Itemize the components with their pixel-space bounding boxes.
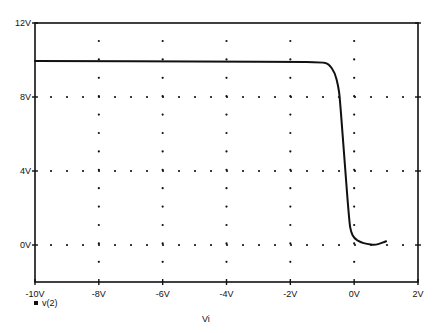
legend-label: v(2) <box>42 298 58 308</box>
x-tick-label: -6V <box>156 289 170 299</box>
y-tick-label: 4V <box>20 166 31 176</box>
x-tick-label: 0V <box>349 289 360 299</box>
legend: v(2) <box>34 298 58 308</box>
line-chart: -10V-8V-6V-4V-2V0V2V 0V4V8V12V <box>0 0 437 333</box>
x-axis-tick-labels: -10V-8V-6V-4V-2V0V2V <box>25 289 423 299</box>
y-tick-label: 0V <box>20 240 31 250</box>
x-tick-label: -4V <box>219 289 233 299</box>
y-tick-label: 12V <box>15 18 31 28</box>
x-tick-label: 2V <box>412 289 423 299</box>
y-axis-tick-labels: 0V4V8V12V <box>15 18 31 250</box>
x-tick-label: -2V <box>283 289 297 299</box>
series-v2-line <box>35 61 386 245</box>
y-tick-label: 8V <box>20 92 31 102</box>
x-axis-label: Vi <box>202 314 210 324</box>
x-tick-label: -8V <box>92 289 106 299</box>
legend-marker-icon <box>34 301 38 305</box>
